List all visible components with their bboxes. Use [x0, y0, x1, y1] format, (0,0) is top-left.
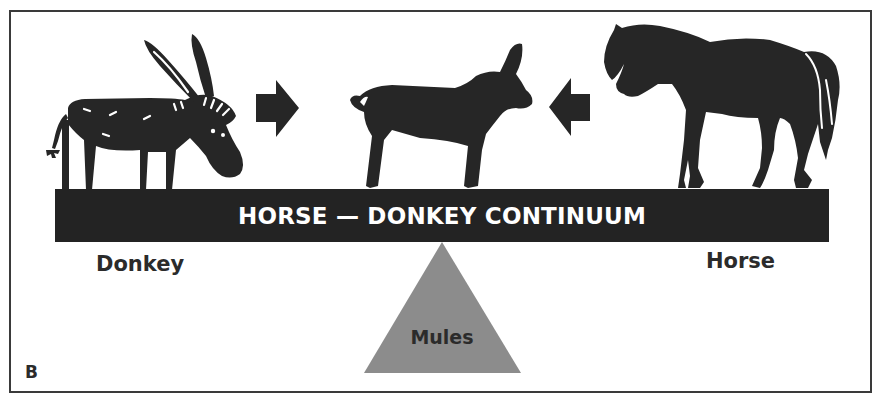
mule-foal-icon	[350, 44, 532, 188]
panel-letter: B	[25, 362, 38, 382]
donkey-icon	[46, 34, 243, 190]
mules-label: Mules	[400, 326, 484, 348]
continuum-bar: HORSE — DONKEY CONTINUUM	[55, 189, 829, 242]
donkey-label: Donkey	[96, 252, 184, 276]
arrow-left-icon	[549, 78, 590, 136]
horse-label: Horse	[706, 249, 775, 273]
continuum-title: HORSE — DONKEY CONTINUUM	[238, 203, 646, 229]
mules-fulcrum-triangle	[364, 242, 521, 373]
arrow-right-icon	[256, 80, 299, 137]
horse-icon	[604, 24, 840, 188]
